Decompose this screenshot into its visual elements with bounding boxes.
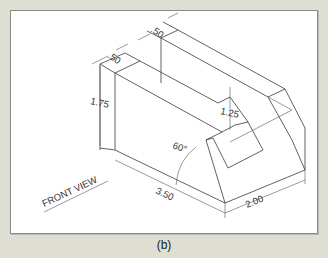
dim-depth: 2.00 — [244, 193, 265, 210]
isometric-drawing: .50 .50 1.75 1.25 60° 3.50 2.00 FRONT VI… — [0, 0, 328, 258]
dim-angle: 60° — [171, 140, 188, 155]
dim-top-thickness-left: .50 — [106, 50, 123, 67]
figure-caption: (b) — [0, 238, 328, 252]
dim-height-slot: 1.25 — [220, 105, 240, 120]
dim-height-left: 1.75 — [90, 95, 110, 110]
front-view-label: FRONT VIEW — [40, 174, 99, 209]
dim-top-thickness-right: .50 — [149, 24, 166, 41]
object-outline — [100, 22, 305, 203]
